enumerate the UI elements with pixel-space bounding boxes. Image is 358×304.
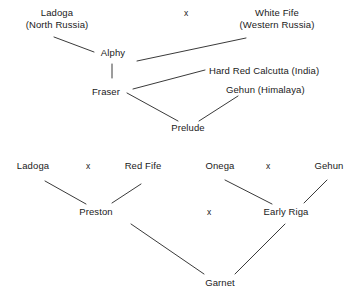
- cross-symbol-preston-earlyriga: x: [207, 208, 211, 217]
- node-garnet: Garnet: [205, 277, 235, 289]
- line-whitefife-to-alphy: [137, 38, 246, 61]
- node-early-riga: Early Riga: [264, 206, 309, 218]
- line-redfife-to-preston: [112, 184, 141, 203]
- node-sublabel: (Western Russia): [240, 19, 315, 31]
- line-onega-to-earlyriga: [225, 180, 272, 204]
- line-calcutta-to-fraser: [133, 70, 205, 89]
- node-ladoga: Ladoga: [17, 160, 49, 172]
- node-label: Red Fife: [125, 160, 162, 171]
- node-onega: Onega: [205, 160, 234, 172]
- node-label: Early Riga: [264, 206, 309, 217]
- node-label: Ladoga: [17, 160, 49, 171]
- node-label: Ladoga: [41, 7, 73, 18]
- node-label: Garnet: [205, 277, 235, 288]
- node-white-fife: White Fife (Western Russia): [240, 7, 315, 30]
- node-label: Preston: [79, 206, 112, 217]
- node-label: Alphy: [101, 47, 125, 58]
- node-red-fife: Red Fife: [125, 160, 162, 172]
- node-label: Hard Red Calcutta (India): [209, 65, 319, 76]
- pedigree-connector-lines: [0, 0, 358, 304]
- line-ladoga-to-preston: [45, 181, 86, 204]
- node-fraser: Fraser: [92, 86, 120, 98]
- node-prelude: Prelude: [171, 122, 204, 134]
- line-preston-to-garnet: [131, 224, 204, 274]
- node-gehun: Gehun: [314, 160, 343, 172]
- cross-symbol-onega-gehun: x: [266, 162, 270, 171]
- line-gehun-to-earlyriga: [304, 180, 327, 203]
- node-alphy: Alphy: [101, 47, 125, 59]
- node-preston: Preston: [79, 206, 112, 218]
- node-label: Gehun: [314, 160, 343, 171]
- node-label: Fraser: [92, 86, 120, 97]
- node-sublabel: (North Russia): [26, 19, 89, 31]
- node-label: Prelude: [171, 122, 204, 133]
- cross-symbol-ladoga-whitefife: x: [184, 9, 188, 18]
- line-fraser-to-prelude: [127, 93, 178, 121]
- cross-symbol-ladoga-redfife: x: [86, 162, 90, 171]
- line-ladoga-to-alphy: [54, 37, 94, 52]
- node-hard-red-calcutta: Hard Red Calcutta (India): [209, 65, 319, 77]
- node-label: Gehun (Himalaya): [226, 84, 305, 95]
- line-gehunhimalaya-to-prelude: [199, 96, 238, 121]
- node-gehun-himalaya: Gehun (Himalaya): [226, 84, 305, 96]
- node-label: Onega: [205, 160, 234, 171]
- pedigree-diagram: Ladoga (North Russia) x White Fife (West…: [0, 0, 358, 304]
- node-ladoga-north-russia: Ladoga (North Russia): [26, 7, 89, 30]
- node-label: White Fife: [255, 7, 299, 18]
- line-earlyriga-to-garnet: [235, 224, 285, 274]
